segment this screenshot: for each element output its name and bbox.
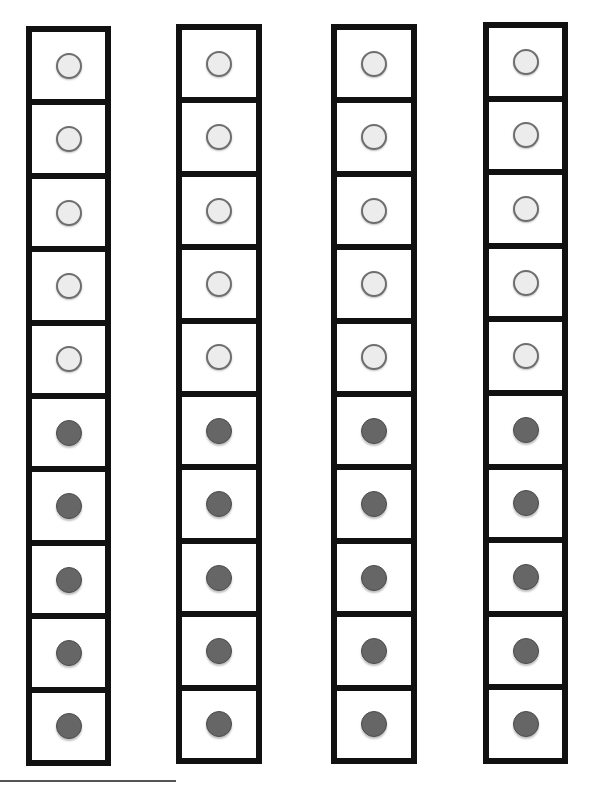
empty-counter-icon: [513, 122, 539, 148]
frame-cell: [337, 470, 411, 543]
frame-cell: [489, 470, 562, 544]
frame-cell: [182, 397, 256, 470]
empty-counter-icon: [56, 126, 82, 152]
frame-cell: [489, 543, 562, 617]
filled-counter-icon: [513, 490, 539, 516]
filled-counter-icon: [513, 711, 539, 737]
frame-cell: [182, 103, 256, 176]
empty-counter-icon: [361, 198, 387, 224]
frame-cell: [489, 396, 562, 470]
filled-counter-icon: [206, 565, 232, 591]
filled-counter-icon: [361, 711, 387, 737]
empty-counter-icon: [206, 124, 232, 150]
empty-counter-icon: [56, 200, 82, 226]
empty-counter-icon: [206, 198, 232, 224]
filled-counter-icon: [361, 638, 387, 664]
frame-cell: [32, 546, 105, 619]
frame-cell: [337, 617, 411, 690]
frame-cell: [182, 691, 256, 758]
frame-cell: [32, 252, 105, 325]
empty-counter-icon: [56, 273, 82, 299]
filled-counter-icon: [513, 638, 539, 664]
frame-cell: [489, 322, 562, 396]
filled-counter-icon: [206, 638, 232, 664]
frame-cell: [337, 30, 411, 103]
filled-counter-icon: [361, 565, 387, 591]
frame-3: [331, 24, 417, 764]
filled-counter-icon: [513, 417, 539, 443]
frame-cell: [32, 619, 105, 692]
filled-counter-icon: [56, 420, 82, 446]
frame-cell: [32, 399, 105, 472]
frame-cell: [489, 28, 562, 102]
frame-cell: [32, 472, 105, 545]
frame-cell: [489, 690, 562, 758]
filled-counter-icon: [56, 713, 82, 739]
empty-counter-icon: [206, 344, 232, 370]
frame-cell: [337, 250, 411, 323]
empty-counter-icon: [206, 51, 232, 77]
filled-counter-icon: [361, 418, 387, 444]
empty-counter-icon: [361, 51, 387, 77]
frame-cell: [337, 177, 411, 250]
empty-counter-icon: [513, 49, 539, 75]
frame-cell: [32, 105, 105, 178]
frame-cell: [182, 324, 256, 397]
frame-cell: [489, 249, 562, 323]
frame-cell: [337, 691, 411, 758]
filled-counter-icon: [206, 491, 232, 517]
frame-1: [26, 26, 111, 766]
frame-cell: [32, 693, 105, 760]
empty-counter-icon: [56, 346, 82, 372]
empty-counter-icon: [513, 343, 539, 369]
empty-counter-icon: [206, 271, 232, 297]
filled-counter-icon: [56, 567, 82, 593]
frame-2: [176, 24, 262, 764]
frame-cell: [182, 617, 256, 690]
filled-counter-icon: [513, 564, 539, 590]
empty-counter-icon: [513, 270, 539, 296]
empty-counter-icon: [56, 53, 82, 79]
filled-counter-icon: [361, 491, 387, 517]
footer-rule: [0, 780, 176, 782]
frame-cell: [182, 250, 256, 323]
frame-cell: [182, 544, 256, 617]
frame-cell: [182, 177, 256, 250]
filled-counter-icon: [56, 640, 82, 666]
empty-counter-icon: [361, 344, 387, 370]
frame-4: [483, 22, 568, 764]
empty-counter-icon: [361, 271, 387, 297]
frame-cell: [337, 397, 411, 470]
frame-cell: [182, 30, 256, 103]
frame-cell: [337, 103, 411, 176]
empty-counter-icon: [513, 196, 539, 222]
empty-counter-icon: [361, 124, 387, 150]
frame-cell: [489, 102, 562, 176]
filled-counter-icon: [56, 493, 82, 519]
frame-cell: [32, 179, 105, 252]
frame-cell: [32, 32, 105, 105]
frame-cell: [32, 326, 105, 399]
frame-cell: [337, 324, 411, 397]
filled-counter-icon: [206, 418, 232, 444]
filled-counter-icon: [206, 711, 232, 737]
frame-cell: [337, 544, 411, 617]
frame-cell: [489, 617, 562, 691]
frame-cell: [489, 175, 562, 249]
frame-cell: [182, 470, 256, 543]
